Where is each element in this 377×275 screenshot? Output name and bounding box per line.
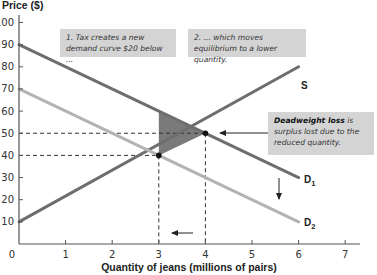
y-tick-label: 50 [1, 128, 14, 139]
y-tick-label: 100 [0, 17, 14, 28]
callout-deadweight-loss: Deadweight loss is surplus lost due to t… [268, 112, 374, 155]
supply-label: S [301, 80, 308, 91]
x-tick-label: 4 [202, 249, 208, 260]
x-tick-label: 2 [109, 249, 115, 260]
demand-d2-label: D2 [304, 217, 315, 231]
y-tick-label: 30 [1, 172, 14, 183]
y-axis-title: Price ($) [2, 0, 43, 11]
y-tick-label: 40 [1, 150, 14, 161]
demand-d1-label: D1 [304, 174, 315, 188]
y-tick-label: 80 [1, 61, 14, 72]
x-tick-label: 7 [342, 249, 348, 260]
x-tick-label: 1 [62, 249, 68, 260]
y-tick-label: 60 [1, 106, 14, 117]
original-equilibrium-point [203, 130, 209, 136]
x-tick-label: 3 [156, 249, 162, 260]
y-tick-label: 10 [1, 216, 14, 227]
callout-lower-equilibrium: 2. ... which moves equilibrium to a lowe… [188, 29, 306, 57]
y-tick-label: 70 [1, 83, 14, 94]
new-equilibrium-point [156, 153, 162, 159]
callout-tax-new-demand: 1. Tax creates a new demand curve $20 be… [60, 29, 176, 57]
x-axis-title: Quantity of jeans (millions of pairs) [101, 261, 277, 273]
origin-label: 0 [9, 249, 15, 260]
deadweight-loss-term: Deadweight loss [274, 116, 345, 125]
y-tick-label: 20 [1, 194, 14, 205]
x-tick-label: 5 [249, 249, 255, 260]
x-tick-label: 6 [295, 249, 301, 260]
y-tick-label: 90 [1, 39, 14, 50]
